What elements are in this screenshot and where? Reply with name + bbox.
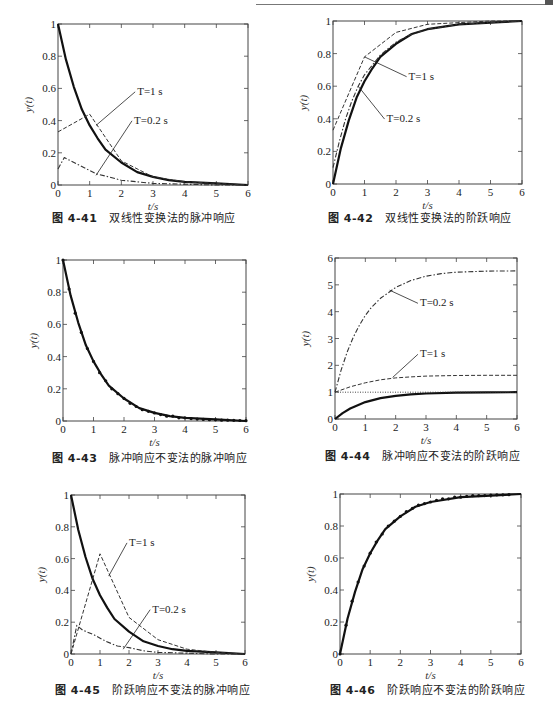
data-marker	[153, 411, 156, 414]
y-tick-label: 1	[64, 489, 70, 501]
y-tick-label: 0.2	[47, 383, 61, 395]
x-tick-label: 4	[458, 656, 464, 668]
data-marker	[417, 504, 420, 507]
data-marker	[357, 580, 360, 583]
annotation-label: T=0.2 s	[152, 603, 186, 615]
data-marker	[507, 493, 510, 496]
data-marker	[429, 500, 432, 503]
annotation-label: T=1 s	[409, 70, 434, 82]
data-marker	[399, 515, 402, 518]
x-tick-label: 4	[454, 421, 460, 433]
x-tick-label: 5	[213, 423, 219, 435]
y-tick-label: 6	[328, 252, 334, 264]
data-marker	[501, 493, 504, 496]
figure-caption-text: 脉冲响应不变法的脉冲响应	[109, 452, 247, 465]
data-marker	[171, 415, 174, 418]
annotation-label: T=1 s	[137, 85, 162, 97]
series-line	[333, 21, 522, 184]
data-marker	[495, 493, 498, 496]
x-tick-label: 6	[242, 656, 248, 668]
figure-caption-text: 阶跃响应不变法的脉冲响应	[112, 684, 250, 697]
y-tick-label: 1	[51, 18, 57, 30]
y-tick-label: 0.2	[317, 145, 331, 157]
y-tick-label: 0	[64, 648, 70, 660]
x-tick-label: 1	[87, 187, 93, 199]
data-marker	[423, 502, 426, 505]
data-marker	[435, 499, 438, 502]
annotation-leader	[358, 86, 384, 119]
figure-caption-text: 阶跃响应不变法的阶跃响应	[387, 684, 525, 697]
data-marker	[489, 494, 492, 497]
data-marker	[196, 417, 199, 420]
y-tick-label: 1	[333, 488, 339, 500]
data-marker	[92, 360, 95, 363]
x-tick-label: 0	[68, 656, 74, 668]
y-tick-label: 1	[56, 254, 62, 266]
series-line	[71, 495, 245, 654]
x-tick-label: 3	[155, 656, 161, 668]
x-tick-label: 0	[330, 186, 336, 198]
data-marker	[369, 552, 372, 555]
data-marker	[220, 419, 223, 422]
data-marker	[477, 494, 480, 497]
figure-caption-text: 脉冲响应不变法的阶跃响应	[382, 450, 520, 463]
data-marker	[393, 520, 396, 523]
x-axis-label: t/s	[425, 669, 435, 681]
data-marker	[98, 371, 101, 374]
series-line	[335, 271, 517, 392]
x-tick-label: 0	[332, 421, 338, 433]
series-line	[335, 392, 517, 419]
x-tick-label: 5	[213, 656, 219, 668]
x-tick-label: 0	[60, 423, 66, 435]
x-tick-label: 4	[182, 187, 188, 199]
y-tick-label: 0.2	[324, 616, 338, 628]
y-tick-label: 0.8	[42, 50, 56, 62]
x-tick-label: 1	[362, 186, 368, 198]
data-marker	[104, 379, 107, 382]
y-tick-label: 0	[51, 179, 57, 191]
series-line	[333, 21, 522, 168]
y-tick-label: 5	[328, 279, 334, 291]
figure-caption-text: 双线性变换法的脉冲响应	[109, 212, 236, 225]
figure-caption: 图 4-42双线性变换法的阶跃响应	[328, 209, 512, 225]
x-tick-label: 1	[363, 421, 369, 433]
y-axis-label: y(t)	[22, 97, 35, 114]
data-marker	[459, 496, 462, 499]
x-tick-label: 6	[245, 187, 251, 199]
figure-caption: 图 4-44脉冲响应不变法的阶跃响应	[325, 447, 520, 463]
annotation-leader	[393, 354, 418, 377]
data-marker	[441, 497, 444, 500]
data-marker	[141, 408, 144, 411]
figure-caption: 图 4-46阶跃响应不变法的阶跃响应	[330, 681, 525, 697]
annotation-label: T=0.2 s	[134, 114, 168, 126]
y-tick-label: 0.8	[55, 521, 69, 533]
data-marker	[447, 497, 450, 500]
data-marker	[116, 392, 119, 395]
x-tick-label: 6	[243, 423, 249, 435]
data-marker	[208, 418, 211, 421]
x-tick-label: 2	[393, 186, 399, 198]
y-tick-label: 0.6	[47, 318, 61, 330]
x-tick-label: 5	[214, 187, 220, 199]
plot-frame	[340, 494, 521, 654]
y-tick-label: 0.8	[47, 286, 61, 298]
data-marker	[363, 564, 366, 567]
data-marker	[350, 600, 353, 603]
y-axis-label: y(t)	[297, 95, 310, 112]
figure-number: 图 4-45	[55, 684, 100, 697]
y-tick-label: 0.2	[42, 147, 56, 159]
x-tick-label: 5	[484, 421, 490, 433]
y-tick-label: 1	[326, 15, 332, 27]
y-tick-label: 0	[326, 178, 332, 190]
data-marker	[110, 387, 113, 390]
data-marker	[147, 410, 150, 413]
series-line	[58, 158, 248, 185]
x-tick-label: 6	[519, 186, 525, 198]
figure-number: 图 4-43	[52, 452, 97, 465]
x-tick-label: 3	[152, 423, 158, 435]
chart-fig-4-43: 012345600.20.40.60.81t/sy(t)	[27, 254, 249, 448]
series-line	[58, 24, 248, 185]
series-line	[63, 260, 246, 421]
data-marker	[244, 419, 247, 422]
data-marker	[74, 312, 77, 315]
